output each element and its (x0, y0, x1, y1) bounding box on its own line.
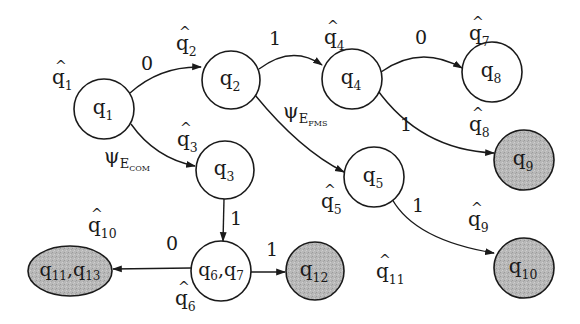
edge-label: 1 (230, 207, 242, 229)
hat-accent: ^ (472, 14, 484, 30)
hat-accent: ^ (379, 252, 391, 268)
hat-label-qhat8: q8^ (469, 105, 490, 140)
edge-label: ψECOM (104, 144, 150, 173)
state-q10: q10 (494, 238, 554, 298)
hat-label-qhat10: q10^ (88, 206, 117, 241)
transition-arrow (113, 268, 191, 269)
hat-label-qhat6: q6^ (175, 279, 196, 314)
edge-q6q7-q11q13: 0 (113, 232, 191, 269)
edge-q3-q6q7: 1 (223, 199, 242, 241)
hat-accent: ^ (91, 206, 103, 222)
state-diagram: 0ψECOM1ψEFMS011101 q1q2q3q4q5q8q9q10q6,q… (0, 0, 580, 324)
edge-q6q7-q12: 1 (251, 238, 285, 272)
hat-accent: ^ (327, 18, 339, 34)
edge-label: ψEFMS (283, 99, 327, 128)
hat-accent: ^ (178, 279, 190, 295)
hat-accent: ^ (55, 58, 67, 74)
hat-label-qhat11: q11^ (376, 252, 405, 287)
hat-label-qhat4: q4^ (324, 18, 345, 53)
state-q9: q9 (494, 130, 554, 190)
edge-label: 0 (415, 26, 427, 48)
transition-arrow (255, 95, 344, 172)
edge-q2-q4: 1 (259, 27, 322, 69)
transition-arrow (259, 55, 322, 69)
edges-layer: 0ψECOM1ψEFMS011101 (104, 26, 494, 272)
edge-label: 1 (266, 238, 278, 260)
state-q12: q12 (286, 242, 344, 300)
edge-q4-q8: 0 (381, 26, 462, 72)
hat-label-qhat3: q3^ (177, 120, 198, 155)
state-q2: q2 (202, 51, 260, 109)
state-q8: q8 (462, 42, 522, 102)
hat-accent: ^ (471, 200, 483, 216)
edge-label: 0 (141, 52, 153, 74)
edge-q2-q5: ψEFMS (255, 95, 344, 172)
state-q11q13: q11,q13 (28, 246, 112, 296)
edge-label: 1 (269, 27, 281, 49)
transition-arrow (223, 199, 224, 241)
hat-label-qhat1: q1^ (52, 58, 73, 93)
edge-label: 1 (412, 194, 424, 216)
hat-label-qhat5: q5^ (321, 182, 342, 217)
state-q5: q5 (344, 147, 404, 207)
state-q6q7: q6,q7 (191, 241, 251, 301)
edge-label: 1 (400, 113, 412, 135)
nodes-layer: q1q2q3q4q5q8q9q10q6,q7q12q11,q13 (28, 42, 554, 301)
hat-label-qhat9: q9^ (468, 200, 489, 235)
hat-label-qhat2: q2^ (176, 24, 197, 59)
state-q4: q4 (322, 49, 382, 109)
state-q1: q1 (74, 79, 134, 139)
hat-accent: ^ (472, 105, 484, 121)
hat-label-qhat7: q7^ (469, 14, 490, 49)
transition-arrow (381, 57, 462, 72)
hat-accent: ^ (180, 120, 192, 136)
hat-accent: ^ (324, 182, 336, 198)
edge-label: 0 (166, 232, 178, 254)
hat-accent: ^ (179, 24, 191, 40)
state-q3: q3 (196, 141, 254, 199)
